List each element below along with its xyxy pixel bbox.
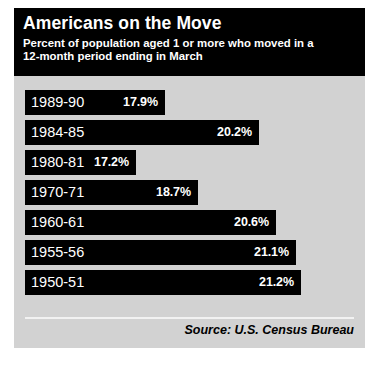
bar-category-label: 1989-90 bbox=[31, 90, 84, 115]
bar-value-label: 21.2% bbox=[259, 270, 294, 295]
chart-header: Americans on the Move Percent of populat… bbox=[14, 8, 365, 76]
chart-card: Americans on the Move Percent of populat… bbox=[14, 8, 365, 348]
source-attribution: Source: U.S. Census Bureau bbox=[25, 323, 354, 337]
bar-category-label: 1950-51 bbox=[31, 270, 84, 295]
bar: 1989-9017.9% bbox=[25, 90, 165, 115]
bar-row: 1970-7118.7% bbox=[25, 180, 198, 205]
bar-row: 1960-6120.6% bbox=[25, 210, 276, 235]
bar-category-label: 1960-61 bbox=[31, 210, 84, 235]
page-title: Americans on the Move bbox=[23, 13, 355, 34]
bar-chart-plot-area: 1989-9017.9%1984-8520.2%1980-8117.2%1970… bbox=[14, 76, 365, 308]
bar-value-label: 17.2% bbox=[94, 150, 129, 175]
bar-category-label: 1970-71 bbox=[31, 180, 84, 205]
bar: 1984-8520.2% bbox=[25, 120, 259, 145]
bar: 1980-8117.2% bbox=[25, 150, 136, 175]
bar-value-label: 18.7% bbox=[156, 180, 191, 205]
bar: 1970-7118.7% bbox=[25, 180, 198, 205]
bar-row: 1984-8520.2% bbox=[25, 120, 259, 145]
bar: 1955-5621.1% bbox=[25, 240, 296, 265]
bar-value-label: 21.1% bbox=[254, 240, 289, 265]
bar-row: 1955-5621.1% bbox=[25, 240, 296, 265]
footer-divider bbox=[25, 317, 354, 319]
bar-value-label: 20.6% bbox=[234, 210, 269, 235]
bar-category-label: 1984-85 bbox=[31, 120, 84, 145]
chart-subtitle-line-2: 12-month period ending in March bbox=[23, 50, 355, 63]
bar: 1960-6120.6% bbox=[25, 210, 276, 235]
bar-category-label: 1955-56 bbox=[31, 240, 84, 265]
bar-value-label: 20.2% bbox=[217, 120, 252, 145]
bar-row: 1950-5121.2% bbox=[25, 270, 301, 295]
bar-category-label: 1980-81 bbox=[31, 150, 84, 175]
chart-subtitle-line-1: Percent of population aged 1 or more who… bbox=[23, 37, 355, 50]
bar-row: 1989-9017.9% bbox=[25, 90, 165, 115]
bar: 1950-5121.2% bbox=[25, 270, 301, 295]
bar-row: 1980-8117.2% bbox=[25, 150, 136, 175]
chart-subtitle: Percent of population aged 1 or more who… bbox=[23, 37, 355, 63]
bar-value-label: 17.9% bbox=[123, 90, 158, 115]
